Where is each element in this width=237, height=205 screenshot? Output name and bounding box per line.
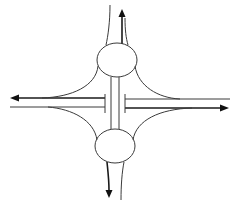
bridge: [111, 77, 119, 129]
north-road-right-edge: [125, 18, 128, 45]
interchange-diagram: [0, 0, 237, 205]
ramp-southeast: [133, 108, 192, 140]
south-exit-lane: [107, 162, 109, 190]
south-roundabout: [95, 129, 135, 163]
diagram-canvas: [0, 0, 237, 205]
east-arrow-icon: [220, 105, 229, 112]
ramp-southwest: [48, 107, 97, 140]
ramp-northwest: [42, 66, 98, 98]
north-road-left-edge: [106, 5, 110, 45]
north-road: [106, 5, 128, 45]
main-road: [10, 94, 230, 113]
west-arrow-icon: [10, 95, 19, 102]
ramp-northeast: [135, 66, 180, 99]
north-roundabout: [97, 43, 137, 77]
south-road-right-edge: [121, 162, 124, 200]
south-arrow-icon: [106, 190, 113, 198]
south-road: [106, 162, 125, 200]
north-arrow-icon: [119, 9, 126, 17]
